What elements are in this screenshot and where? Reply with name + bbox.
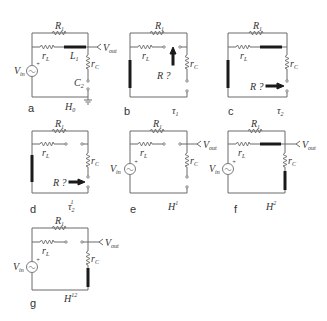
svg-text:rC: rC xyxy=(91,253,100,265)
probe-arrow-up-icon xyxy=(172,53,174,65)
svg-text:rC: rC xyxy=(290,58,299,70)
panel-d: R ? R1 rL rC d τ21 xyxy=(30,118,100,215)
svg-text:rL: rL xyxy=(140,147,148,159)
resistor-rl-icon xyxy=(40,45,54,49)
svg-text:R1: R1 xyxy=(252,20,262,32)
svg-text:rL: rL xyxy=(42,147,50,159)
svg-text:R ?: R ? xyxy=(52,177,67,188)
resistor-rl-icon xyxy=(236,45,250,49)
svg-text:rC: rC xyxy=(288,155,297,167)
svg-text:rL: rL xyxy=(240,50,248,62)
svg-text:+: + xyxy=(36,61,40,67)
probe-arrow-right-icon xyxy=(266,85,278,87)
panel-c-label: c xyxy=(228,105,234,117)
svg-text:rL: rL xyxy=(142,50,150,62)
svg-text:Vin: Vin xyxy=(14,65,25,77)
resistor-rc-icon xyxy=(185,55,189,69)
resistor-rl-icon xyxy=(40,142,54,146)
panel-g-label: g xyxy=(30,297,36,309)
svg-text:Vout: Vout xyxy=(302,139,316,151)
panel-a-label: a xyxy=(28,102,35,114)
svg-text:Vout: Vout xyxy=(103,42,117,54)
svg-text:R1: R1 xyxy=(152,118,162,130)
panel-f: + R1 rL rC Vout Vin f H2 xyxy=(209,118,316,215)
panel-f-label: f xyxy=(234,203,238,215)
svg-text:Vout: Vout xyxy=(203,139,217,151)
svg-text:R1: R1 xyxy=(250,118,260,130)
resistor-rc-icon xyxy=(285,55,289,69)
svg-text:rL: rL xyxy=(42,50,50,62)
resistor-rc-icon xyxy=(86,251,90,265)
svg-text:+: + xyxy=(36,257,40,263)
svg-text:R ?: R ? xyxy=(249,81,264,92)
svg-text:R ?: R ? xyxy=(156,70,171,81)
panel-c: R ? R1 rL rC c τ2 xyxy=(228,20,299,117)
panel-b-label: b xyxy=(124,105,130,117)
svg-text:H12: H12 xyxy=(63,292,77,304)
panel-b: R ? R1 rL rC b τ1 xyxy=(124,20,199,117)
svg-text:rC: rC xyxy=(91,58,100,70)
svg-text:H0: H0 xyxy=(64,101,75,113)
svg-text:rC: rC xyxy=(190,58,199,70)
ac-source-icon xyxy=(27,262,38,273)
resistor-rc-icon xyxy=(86,55,90,69)
panel-d-label: d xyxy=(30,203,36,215)
panel-e-label: e xyxy=(130,203,136,215)
ac-source-icon xyxy=(223,164,234,175)
svg-text:Vin: Vin xyxy=(13,261,24,273)
svg-text:Vout: Vout xyxy=(105,237,119,249)
svg-text:rL: rL xyxy=(238,147,246,159)
svg-text:Vin: Vin xyxy=(209,163,220,175)
resistor-rl-icon xyxy=(138,142,152,146)
resistor-rl-icon xyxy=(138,45,152,49)
svg-text:+: + xyxy=(134,159,138,165)
svg-text:rC: rC xyxy=(190,155,199,167)
svg-text:τ21: τ21 xyxy=(68,199,75,213)
ac-source-icon xyxy=(27,66,38,77)
svg-text:rL: rL xyxy=(42,245,50,257)
resistor-rc-icon xyxy=(283,153,287,167)
resistor-rc-icon xyxy=(86,153,90,167)
svg-text:R1: R1 xyxy=(54,20,64,32)
panel-g: + R1 rL rC Vout Vin g H12 xyxy=(13,215,119,309)
ac-source-icon xyxy=(125,164,136,175)
svg-text:τ1: τ1 xyxy=(172,105,179,117)
circuit-figure: + R1 rL L1 rC C2 Vout Vin a H0 R ? R xyxy=(0,0,327,321)
svg-text:H1: H1 xyxy=(167,200,178,212)
svg-text:R1: R1 xyxy=(54,118,64,130)
svg-text:C2: C2 xyxy=(74,77,84,89)
panel-e: + R1 rL rC Vout Vin e H1 xyxy=(110,118,217,215)
svg-text:τ2: τ2 xyxy=(277,105,284,117)
svg-text:+: + xyxy=(232,159,236,165)
svg-text:R1: R1 xyxy=(54,215,64,227)
resistor-rc-icon xyxy=(185,153,189,167)
svg-text:R1: R1 xyxy=(154,20,164,32)
svg-text:Vin: Vin xyxy=(110,163,121,175)
panel-a: + R1 rL L1 rC C2 Vout Vin a H0 xyxy=(14,20,117,114)
resistor-rl-icon xyxy=(40,240,54,244)
resistor-rl-icon xyxy=(236,142,250,146)
svg-text:L1: L1 xyxy=(69,50,79,62)
svg-text:rC: rC xyxy=(91,155,100,167)
svg-text:H2: H2 xyxy=(265,200,276,212)
